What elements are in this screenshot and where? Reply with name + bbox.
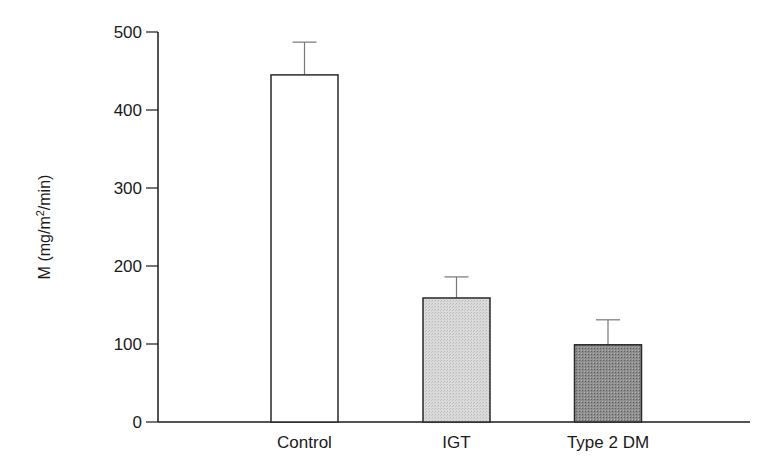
- y-tick-label: 200: [114, 257, 142, 276]
- bar-rect: [423, 298, 490, 422]
- bar-chart: M (mg/m2/min) 0100200300400500 ControlIG…: [0, 0, 777, 476]
- x-axis-categories: ControlIGTType 2 DM: [277, 433, 649, 452]
- bar-rect: [575, 345, 642, 422]
- bar-rect: [271, 75, 338, 422]
- bar-type-2-dm: [575, 320, 642, 422]
- y-tick-label: 0: [133, 413, 142, 432]
- bars: [271, 42, 642, 422]
- bar-control: [271, 42, 338, 422]
- y-tick-label: 300: [114, 179, 142, 198]
- y-tick-label: 500: [114, 23, 142, 42]
- x-category-label: IGT: [442, 433, 470, 452]
- y-axis-title: M (mg/m2/min): [34, 175, 53, 280]
- x-category-label: Control: [277, 433, 332, 452]
- bar-igt: [423, 277, 490, 422]
- y-axis-ticks: 0100200300400500: [114, 23, 158, 432]
- y-tick-label: 400: [114, 101, 142, 120]
- y-tick-label: 100: [114, 335, 142, 354]
- x-category-label: Type 2 DM: [567, 433, 649, 452]
